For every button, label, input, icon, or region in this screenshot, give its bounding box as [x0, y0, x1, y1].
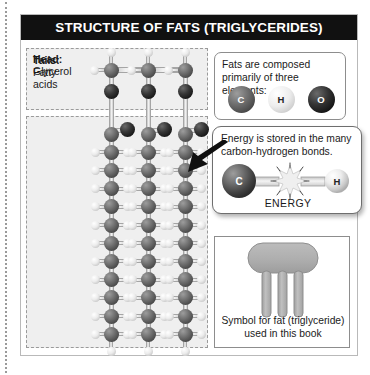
hydrogen-atom	[128, 330, 137, 339]
hydrogen-atom	[197, 239, 206, 248]
carbon-atom	[141, 145, 156, 160]
hydrogen-atom	[165, 184, 174, 193]
carbon-atom	[104, 254, 119, 269]
molecule-atoms-layer	[26, 48, 208, 348]
carbon-atom	[104, 290, 119, 305]
hydrogen-atom	[197, 184, 206, 193]
element-chip-hydrogen: H	[268, 86, 295, 113]
symbol-caption: Symbol for fat (triglyceride) used in th…	[218, 314, 348, 340]
element-chip-row: CHO	[215, 86, 347, 113]
energy-callout-box: Energy is stored in the many carbon-hydr…	[212, 126, 362, 214]
hydrogen-atom	[107, 347, 116, 356]
pointer-arrow-icon	[186, 140, 230, 174]
carbon-atom	[178, 327, 193, 342]
oxygen-atom	[157, 122, 172, 137]
oxygen-atom	[104, 84, 119, 99]
hydrogen-atom	[197, 330, 206, 339]
carbon-atom	[141, 309, 156, 324]
carbon-atom	[178, 63, 193, 78]
fatty-acid-tails-label: Tails: Fatty acids	[33, 54, 60, 90]
hydrogen-atom	[91, 221, 100, 230]
triglyceride-molecule-diagram: Head: Glycerol Tails: Fatty acids	[26, 48, 208, 348]
symbol-callout-box: Symbol for fat (triglyceride) used in th…	[214, 236, 350, 348]
carbon-atom	[178, 218, 193, 233]
carbon-atom	[104, 236, 119, 251]
hydrogen-atom	[197, 275, 206, 284]
hydrogen-atom	[128, 166, 137, 175]
hydrogen-atom	[181, 48, 190, 57]
hydrogen-atom	[91, 239, 100, 248]
hydrogen-atom	[107, 48, 116, 57]
energy-hydrogen-label: H	[334, 176, 341, 187]
triglyceride-symbol-icon	[215, 241, 351, 321]
hydrogen-atom	[128, 257, 137, 266]
hydrogen-atom	[165, 202, 174, 211]
carbon-atom	[104, 218, 119, 233]
energy-callout-text: Energy is stored in the many carbon-hydr…	[221, 132, 357, 158]
carbon-atom	[141, 236, 156, 251]
hydrogen-atom	[164, 66, 173, 75]
carbon-atom	[178, 254, 193, 269]
hydrogen-atom	[197, 293, 206, 302]
tails-label-line2: acids	[33, 78, 60, 90]
hydrogen-atom	[165, 312, 174, 321]
hydrogen-atom	[91, 293, 100, 302]
hydrogen-atom	[91, 257, 100, 266]
hydrogen-atom	[128, 239, 137, 248]
carbon-atom	[104, 145, 119, 160]
hydrogen-atom	[128, 202, 137, 211]
hydrogen-atom	[90, 66, 99, 75]
carbon-atom	[141, 181, 156, 196]
hydrogen-atom	[165, 275, 174, 284]
hydrogen-atom	[165, 293, 174, 302]
energy-starburst-icon	[271, 163, 309, 199]
carbon-atom	[104, 181, 119, 196]
carbon-atom	[141, 272, 156, 287]
oxygen-atom	[120, 122, 135, 137]
symbol-caption-line1: Symbol for fat (triglyceride)	[221, 315, 344, 326]
carbon-atom	[141, 63, 156, 78]
energy-label: ENERGY	[213, 197, 363, 209]
hydrogen-atom	[165, 166, 174, 175]
carbon-atom	[178, 199, 193, 214]
hydrogen-atom	[91, 330, 100, 339]
carbon-atom	[104, 63, 119, 78]
carbon-atom	[141, 199, 156, 214]
hydrogen-atom	[197, 257, 206, 266]
hydrogen-atom	[165, 330, 174, 339]
carbon-atom	[141, 127, 156, 142]
carbon-atom	[178, 309, 193, 324]
carbon-hydrogen-bond-diagram: C H	[213, 159, 363, 199]
hydrogen-atom	[165, 239, 174, 248]
hydrogen-atom	[197, 202, 206, 211]
carbon-atom	[141, 327, 156, 342]
carbon-atom	[104, 127, 119, 142]
carbon-atom	[104, 163, 119, 178]
carbon-atom	[178, 181, 193, 196]
oxygen-atom	[194, 122, 209, 137]
carbon-atom	[178, 236, 193, 251]
hydrogen-atom	[144, 347, 153, 356]
hydrogen-atom	[165, 257, 174, 266]
tails-label-strong: Tails:	[33, 54, 60, 66]
hydrogen-atom	[128, 221, 137, 230]
hydrogen-atom	[91, 184, 100, 193]
hydrogen-atom	[197, 221, 206, 230]
hydrogen-atom	[128, 148, 137, 157]
carbon-atom	[141, 254, 156, 269]
hydrogen-atom	[128, 275, 137, 284]
energy-carbon-label: C	[235, 176, 242, 187]
element-chip-oxygen: O	[308, 86, 335, 113]
hydrogen-atom	[91, 202, 100, 211]
symbol-caption-line2: used in this book	[244, 328, 321, 339]
hydrogen-atom	[91, 312, 100, 321]
carbon-atom	[104, 272, 119, 287]
carbon-atom	[178, 290, 193, 305]
element-chip-carbon: C	[228, 86, 255, 113]
hydrogen-atom	[128, 184, 137, 193]
hydrogen-atom	[128, 312, 137, 321]
hydrogen-atom	[197, 312, 206, 321]
elements-callout-box: Fats are composed primarily of three ele…	[214, 52, 346, 120]
page-edge-dotted-rule	[5, 2, 7, 373]
oxygen-atom	[141, 84, 156, 99]
